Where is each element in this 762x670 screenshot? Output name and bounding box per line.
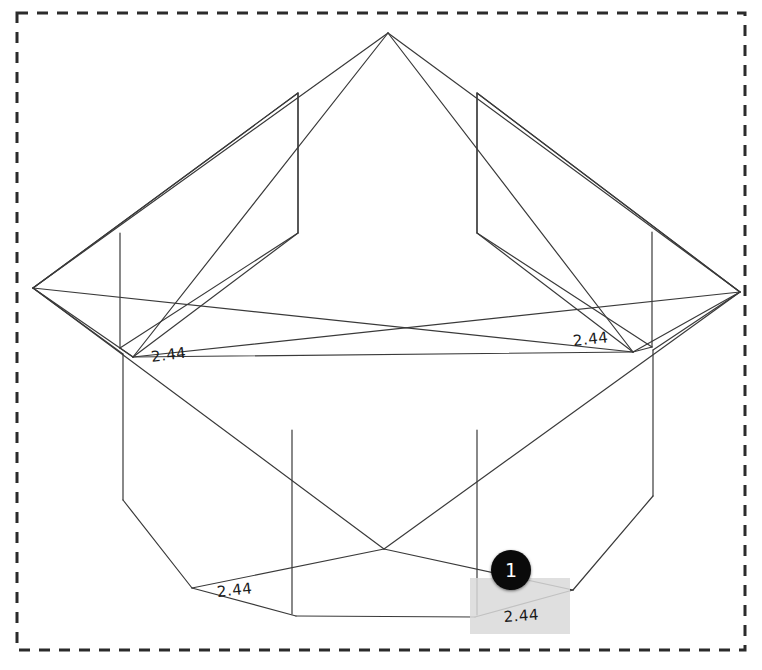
floor-edge-front — [133, 352, 633, 357]
lower-left-outer-start — [33, 288, 123, 354]
floor-diagonal-left — [33, 288, 633, 352]
apex-valley-left — [133, 33, 388, 357]
apex-to-right — [388, 33, 740, 292]
wireframe-canvas[interactable] — [0, 0, 762, 670]
apex-to-left — [33, 33, 388, 288]
floor-edge-right-upper — [633, 292, 740, 352]
lower-right-foot-slope — [573, 496, 653, 590]
model-viewport[interactable]: 2.44 2.44 2.44 2.44 1 — [0, 0, 762, 670]
lower-left-foot-slope — [123, 500, 192, 588]
annotation-marker-1[interactable]: 1 — [491, 550, 531, 590]
ridge-right-upper — [477, 93, 740, 292]
lower-right-outer-start — [653, 292, 740, 350]
dimension-label-left-lower: 2.44 — [216, 579, 253, 601]
dimension-label-right-lower: 2.44 — [503, 606, 540, 626]
upper-right-roof-plane — [477, 93, 740, 347]
lower-base-edge — [296, 616, 475, 617]
dimension-label-right-upper: 2.44 — [572, 328, 609, 350]
apex-valley-right — [388, 33, 633, 352]
upper-right-eave-return — [633, 347, 652, 352]
upper-left-roof-plane — [33, 93, 298, 348]
selection-boundary — [17, 13, 745, 650]
model-wireframe — [33, 33, 740, 617]
